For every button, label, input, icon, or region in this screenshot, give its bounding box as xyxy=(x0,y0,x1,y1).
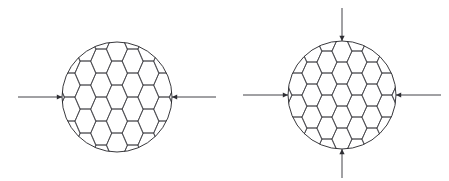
figure-canvas xyxy=(0,0,449,181)
background xyxy=(0,0,449,181)
honeycomb-figure xyxy=(0,0,449,181)
